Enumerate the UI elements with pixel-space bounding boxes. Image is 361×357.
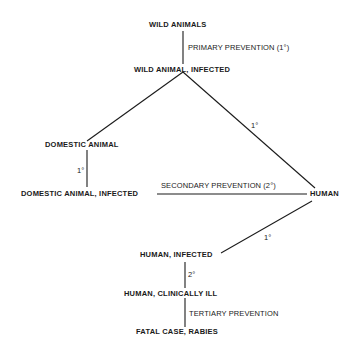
label-tertiary-prevention: TERTIARY PREVENTION: [189, 310, 278, 318]
rabies-prevention-diagram: WILD ANIMALS WILD ANIMAL, INFECTED DOMES…: [0, 0, 361, 357]
edge-wild-infected-to-human: [183, 72, 315, 188]
node-human-infected: HUMAN, INFECTED: [140, 251, 213, 259]
edge-human-to-infected: [221, 201, 312, 253]
node-wild-animal-infected: WILD ANIMAL, INFECTED: [134, 66, 230, 74]
label-wild-human-primary: 1°: [251, 122, 258, 130]
label-human-infected-primary: 1°: [264, 234, 271, 242]
node-wild-animals: WILD ANIMALS: [149, 21, 207, 29]
connector-lines: [0, 0, 361, 357]
node-human-clinically-ill: HUMAN, CLINICALLY ILL: [124, 290, 217, 298]
label-primary-prevention: PRIMARY PREVENTION (1°): [188, 44, 289, 52]
node-human: HUMAN: [310, 190, 339, 198]
node-fatal-case: FATAL CASE, RABIES: [136, 328, 218, 336]
edge-wild-infected-to-domestic: [87, 72, 183, 141]
node-domestic-animal: DOMESTIC ANIMAL: [45, 141, 119, 149]
label-secondary: 2°: [188, 271, 195, 279]
node-domestic-animal-infected: DOMESTIC ANIMAL, INFECTED: [21, 190, 138, 198]
label-secondary-prevention: SECONDARY PREVENTION (2°): [161, 182, 276, 190]
label-domestic-primary: 1°: [77, 167, 84, 175]
